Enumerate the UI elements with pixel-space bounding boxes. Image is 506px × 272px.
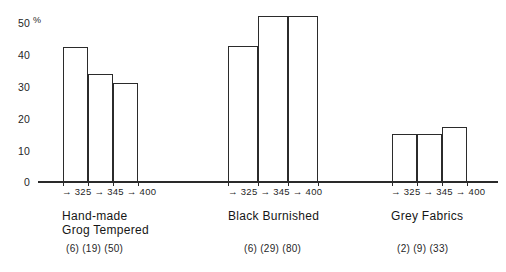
group-title-greyfabrics: Grey Fabrics xyxy=(391,210,463,224)
group-counts-handmade: (6) (19) (50) xyxy=(66,243,123,254)
y-axis-tick-20: 20 xyxy=(4,113,30,125)
bar-greyfabrics-345 xyxy=(417,134,442,182)
bar-handmade-400 xyxy=(113,83,138,182)
y-axis-percent-symbol: % xyxy=(33,15,41,25)
group-title-blackburnished: Black Burnished xyxy=(228,210,319,224)
y-axis-tick-50: 50 xyxy=(4,17,30,29)
y-axis-tick-0: 0 xyxy=(4,176,30,188)
group-title-handmade: Hand-made Grog Tempered xyxy=(62,210,149,237)
y-axis-tick-30: 30 xyxy=(4,81,30,93)
bar-handmade-345 xyxy=(88,74,113,182)
bar-greyfabrics-400 xyxy=(442,127,467,182)
x-axis-labels-handmade: → 325 → 345 → 400 xyxy=(62,186,156,197)
bar-blackburnished-345 xyxy=(258,16,288,182)
x-axis-labels-greyfabrics: → 325 → 345 → 400 xyxy=(391,186,485,197)
bar-blackburnished-325 xyxy=(228,46,258,182)
histogram-figure: 50 % 40 30 20 10 0 → 325 → 345 → 400 Han… xyxy=(0,0,506,272)
bar-blackburnished-400 xyxy=(288,16,318,182)
bar-handmade-325 xyxy=(63,47,88,182)
y-axis-tick-10: 10 xyxy=(4,145,30,157)
x-axis-labels-blackburnished: → 325 → 345 → 400 xyxy=(228,186,322,197)
group-counts-blackburnished: (6) (29) (80) xyxy=(244,243,301,254)
bar-greyfabrics-325 xyxy=(392,134,417,182)
group-counts-greyfabrics: (2) (9) (33) xyxy=(397,243,448,254)
y-axis-tick-40: 40 xyxy=(4,49,30,61)
